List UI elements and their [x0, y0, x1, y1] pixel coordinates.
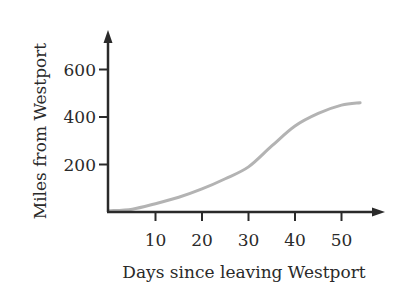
x-tick-label: 30: [238, 230, 260, 250]
x-tick-label: 40: [284, 230, 306, 250]
y-tick-label: 200: [64, 155, 96, 175]
x-tick-label: 10: [145, 230, 167, 250]
y-tick-label: 600: [64, 60, 96, 80]
y-axis-ticks: 200400600: [64, 60, 108, 175]
distance-curve: [109, 103, 360, 211]
line-chart: 200400600 1020304050 Days since leaving …: [0, 0, 405, 303]
x-axis-ticks: 1020304050: [145, 212, 353, 250]
x-axis-title: Days since leaving Westport: [122, 262, 365, 282]
x-axis-arrow-icon: [372, 208, 385, 217]
x-tick-label: 20: [191, 230, 213, 250]
y-tick-label: 400: [64, 107, 96, 127]
y-axis-title: Miles from Westport: [30, 43, 50, 220]
x-tick-label: 50: [331, 230, 353, 250]
y-axis-arrow-icon: [104, 30, 113, 43]
